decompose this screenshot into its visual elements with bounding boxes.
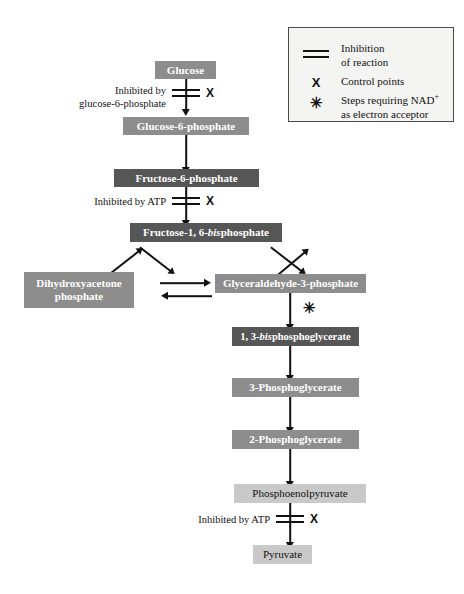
legend-item-control-points: Control points: [341, 75, 404, 89]
node-1-3-bisphosphoglycerate: 1, 3-bisphosphoglycerate: [232, 327, 359, 346]
arrow-f16bp-to-dhap: [140, 247, 176, 275]
glycolysis-diagram: Inhibition of reaction X Control points …: [0, 0, 464, 594]
legend-nad-line1: Steps requiring NAD+: [341, 94, 439, 108]
node-glucose-6-phosphate: Glucose-6-phosphate: [123, 117, 249, 135]
label-inhibited-by-g6p: Inhibited by glucose-6-phosphate: [46, 85, 166, 111]
legend-nad-line2: as electron acceptor: [341, 108, 439, 122]
node-f16bp-text: Fructose-1, 6-bisphosphate: [143, 226, 269, 238]
inhibition-symbol-hexokinase: [172, 89, 200, 99]
legend-item-nad: Steps requiring NAD+ as electron accepto…: [341, 94, 439, 121]
label-inhibited-by-g6p-line2: glucose-6-phosphate: [46, 98, 166, 111]
arrow-dhap-to-f16bp: [108, 247, 144, 275]
node-glyceraldehyde-3-phosphate: Glyceraldehyde-3-phosphate: [215, 274, 366, 293]
nad-asterisk-marker: ✳: [303, 301, 316, 316]
label-inhibited-by-atp-pk: Inhibited by ATP: [160, 514, 270, 527]
label-inhibited-by-g6p-line1: Inhibited by: [46, 85, 166, 98]
double-bar-icon: [303, 50, 329, 60]
node-dhap-line1: Dihydroxyacetone: [36, 277, 121, 290]
node-3-phosphoglycerate: 3-Phosphoglycerate: [232, 378, 359, 397]
node-dhap-line2: phosphate: [55, 290, 103, 303]
node-fructose-6-phosphate: Fructose-6-phosphate: [114, 169, 259, 187]
node-dihydroxyacetone-phosphate: Dihydroxyacetone phosphate: [24, 272, 134, 308]
node-fructose-1-6-bisphosphate: Fructose-1, 6-bisphosphate: [130, 223, 282, 242]
node-bpg-text: 1, 3-bisphosphoglycerate: [240, 331, 350, 343]
arrow-f16bp-to-gap: [271, 247, 307, 275]
legend-inhibition-line1: Inhibition: [341, 42, 388, 56]
label-inhibited-by-atp-pfk: Inhibited by ATP: [56, 196, 166, 209]
control-point-pfk: X: [206, 194, 214, 208]
node-phosphoenolpyruvate: Phosphoenolpyruvate: [234, 484, 366, 503]
legend-inhibition-line2: of reaction: [341, 56, 388, 70]
node-2-phosphoglycerate: 2-Phosphoglycerate: [232, 430, 359, 449]
legend-panel: Inhibition of reaction X Control points …: [288, 27, 454, 122]
inhibition-symbol-pyruvate-kinase: [276, 515, 304, 525]
control-point-pyruvate-kinase: X: [310, 512, 318, 526]
legend-item-inhibition: Inhibition of reaction: [341, 42, 388, 69]
asterisk-icon: ✳: [303, 96, 329, 111]
node-glucose: Glucose: [155, 61, 216, 79]
inhibition-symbol-pfk: [172, 197, 200, 207]
x-icon: X: [303, 75, 329, 90]
control-point-hexokinase: X: [206, 86, 214, 100]
node-pyruvate: Pyruvate: [253, 545, 312, 564]
